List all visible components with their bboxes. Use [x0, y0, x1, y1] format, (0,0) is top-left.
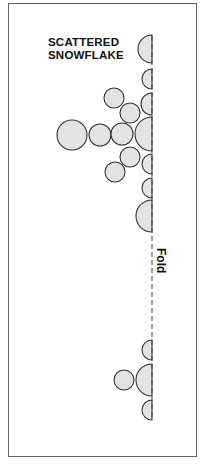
half-circle — [142, 154, 152, 174]
fold-label: Fold — [154, 248, 168, 273]
half-circle — [142, 400, 152, 420]
half-circle — [142, 340, 152, 360]
half-circle — [141, 93, 152, 115]
circle — [105, 162, 125, 182]
circle — [111, 123, 133, 145]
circle — [57, 120, 87, 150]
circle — [104, 88, 124, 108]
circle — [114, 370, 134, 390]
circle — [120, 147, 140, 167]
circle — [120, 103, 140, 123]
half-circle — [136, 200, 152, 232]
half-circle — [136, 364, 152, 396]
half-circle — [135, 117, 152, 151]
snowflake-diagram — [0, 0, 201, 464]
circle — [89, 124, 111, 146]
half-circle — [142, 178, 152, 198]
half-circle — [138, 35, 152, 63]
half-circle — [142, 69, 152, 89]
circles-group — [57, 35, 152, 420]
